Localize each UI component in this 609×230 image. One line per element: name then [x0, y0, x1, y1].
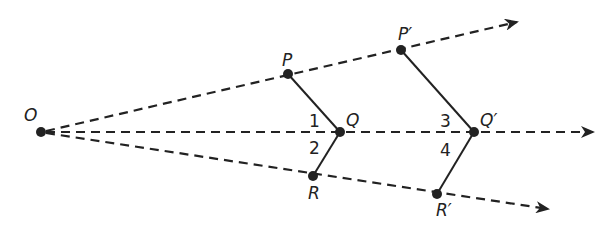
- angle-label-4: 4: [440, 140, 451, 160]
- angle-label-1: 1: [309, 111, 320, 131]
- point-o: [36, 127, 46, 137]
- label-o: O: [24, 105, 37, 125]
- label-q-prime: Q′: [480, 110, 497, 130]
- angle-label-2: 2: [309, 138, 320, 158]
- point-r-prime: [432, 189, 442, 199]
- label-r-prime: R′: [436, 200, 452, 220]
- angle-label-3: 3: [440, 111, 451, 131]
- dilation-diagram: O P Q R P′ Q′ R′ 1 2 3 4: [0, 0, 609, 230]
- point-p: [283, 69, 293, 79]
- point-q: [335, 127, 345, 137]
- label-q: Q: [346, 110, 359, 130]
- segment-p2q2: [401, 50, 474, 132]
- point-q-prime: [469, 127, 479, 137]
- label-r: R: [308, 183, 320, 203]
- point-p-prime: [396, 45, 406, 55]
- ray-or: [46, 133, 548, 209]
- label-p: P: [282, 50, 293, 70]
- point-r: [308, 171, 318, 181]
- label-p-prime: P′: [398, 24, 412, 44]
